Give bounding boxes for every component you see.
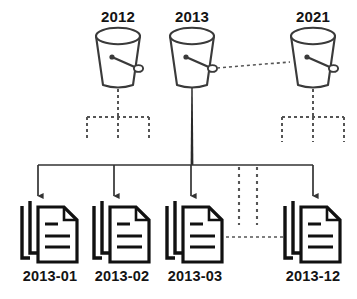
bucket-label-2021: 2021 [296, 8, 330, 25]
document-label-2013-02: 2013-02 [95, 268, 150, 284]
bucket-icon-2021[interactable] [291, 28, 338, 88]
bucket-icon-2012[interactable] [96, 28, 143, 88]
bucket-spout-icon [134, 65, 143, 72]
bucket-rim-icon [170, 28, 214, 44]
diagram-svg: 2012 2013 2021 [0, 0, 357, 299]
ellipsis-stubs [239, 167, 257, 225]
bucket-spout-icon [329, 65, 338, 72]
document-label-2013-01: 2013-01 [23, 268, 78, 284]
diagram-canvas: 2012 2013 2021 [0, 0, 357, 299]
bucket-handle-pivot-icon [183, 54, 188, 59]
dashed-subtree-2021 [282, 89, 344, 142]
dashed-subtree-2012 [87, 89, 149, 140]
bucket-rim-icon [291, 28, 335, 44]
document-stack-icon-2013-01[interactable] [22, 201, 77, 262]
bucket-label-2012: 2012 [101, 8, 135, 25]
fanout-connector [38, 165, 313, 196]
bucket-icon-2013[interactable] [170, 28, 217, 88]
document-stack-icon-2013-03[interactable] [167, 201, 222, 262]
bucket-spout-icon [208, 65, 217, 72]
trunk-2013 [191, 88, 194, 165]
bucket-handle-pivot-icon [304, 54, 309, 59]
bucket-rim-icon [96, 28, 140, 44]
document-stack-icon-2013-12[interactable] [285, 201, 340, 262]
bucket-label-2013: 2013 [175, 8, 209, 25]
bucket-link-2013-2021 [217, 62, 290, 68]
document-label-2013-12: 2013-12 [286, 268, 341, 284]
document-stack-icon-2013-02[interactable] [94, 201, 149, 262]
bucket-handle-pivot-icon [109, 54, 114, 59]
document-label-2013-03: 2013-03 [168, 268, 223, 284]
